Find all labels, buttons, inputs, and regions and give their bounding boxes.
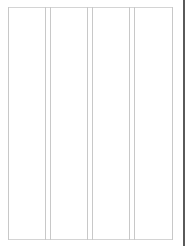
page-edge-scrollbar[interactable] xyxy=(183,0,185,246)
column-4 xyxy=(134,7,173,240)
column-2 xyxy=(50,7,88,240)
column-3 xyxy=(92,7,130,240)
document-page xyxy=(0,0,187,246)
column-1 xyxy=(8,7,46,240)
